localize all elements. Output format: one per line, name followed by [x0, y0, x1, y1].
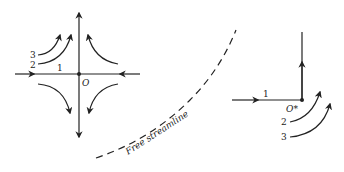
- streamline-lower-left: [38, 84, 70, 113]
- origin-label-right: O*: [286, 104, 298, 114]
- origin-point: [77, 72, 81, 76]
- label-3-right: 3: [281, 132, 287, 142]
- corner-point: [300, 98, 304, 102]
- label-2-right: 2: [281, 117, 287, 127]
- streamline-2-upper-left: [38, 35, 71, 64]
- label-1-left: 1: [57, 63, 63, 73]
- label-3-left: 3: [30, 50, 36, 60]
- streamline-lower-right: [89, 84, 118, 113]
- streamline-3-upper-left: [38, 35, 60, 55]
- free-streamline-curve: [96, 30, 236, 158]
- origin-label-left: O: [82, 78, 90, 88]
- label-1-right: 1: [263, 89, 269, 99]
- stagnation-flow-diagram: 3 2 1 O Free streamline 1 2 3 O*: [0, 0, 344, 172]
- label-2-left: 2: [30, 60, 36, 70]
- free-streamline-label: Free streamline: [123, 109, 190, 158]
- streamline-upper-right: [88, 35, 118, 64]
